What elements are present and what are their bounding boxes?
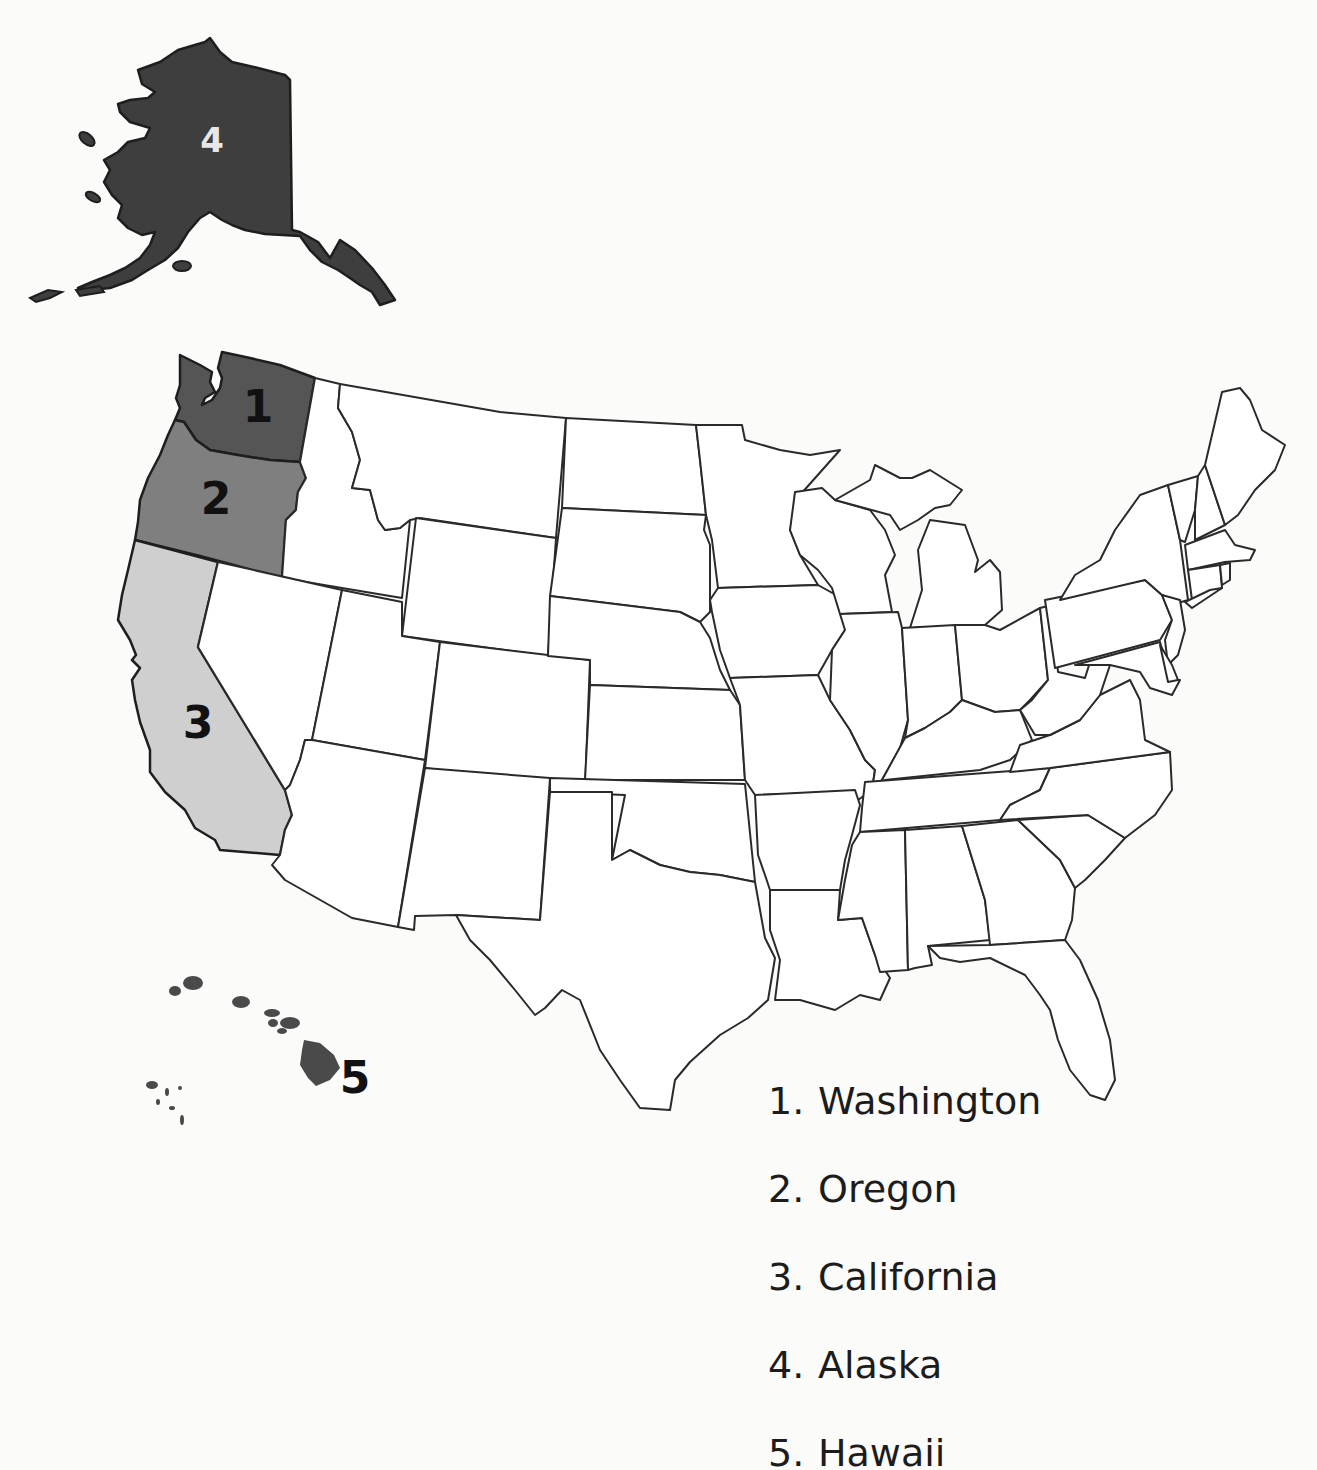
legend-label: California (818, 1254, 998, 1342)
island-maui (280, 1017, 300, 1029)
state-north-dakota (562, 418, 706, 515)
island (84, 190, 102, 205)
island-molokai (264, 1009, 280, 1017)
legend: 1. Washington 2. Oregon 3. California 4.… (768, 1078, 1041, 1470)
state-arkansas (755, 790, 860, 890)
outlying-island (165, 1088, 169, 1096)
legend-number: 3. (768, 1254, 818, 1342)
legend-label: Oregon (818, 1166, 958, 1254)
legend-label: Alaska (818, 1342, 942, 1430)
legend-number: 2. (768, 1166, 818, 1254)
legend-number: 4. (768, 1342, 818, 1430)
alaska-number-label: 4 (200, 120, 224, 160)
other-states (198, 378, 1285, 1110)
legend-item-alaska: 4. Alaska (768, 1342, 1041, 1430)
us-map: 4 1 2 3 (0, 0, 1317, 1470)
state-michigan-lower (910, 520, 1002, 628)
legend-number: 1. (768, 1078, 818, 1166)
oregon-number-label: 2 (201, 473, 232, 524)
island (77, 129, 97, 148)
island-niihau (183, 976, 203, 990)
legend-label: Washington (818, 1078, 1041, 1166)
island-big-island (300, 1040, 340, 1086)
outlying-island (169, 1106, 175, 1110)
outlying-island (178, 1086, 182, 1090)
legend-label: Hawaii (818, 1430, 945, 1470)
legend-number: 5. (768, 1430, 818, 1470)
aleutian-islands (30, 290, 62, 302)
island-oahu (232, 996, 250, 1008)
island-kauai (169, 986, 181, 996)
state-colorado (425, 642, 590, 790)
island (173, 261, 191, 271)
outlying-island (156, 1099, 160, 1105)
state-new-mexico (398, 768, 550, 930)
outlying-island (146, 1081, 158, 1089)
state-alaska[interactable]: 4 (30, 38, 395, 305)
outlying-island (180, 1115, 184, 1125)
state-kansas (585, 685, 745, 780)
california-number-label: 3 (183, 697, 214, 748)
washington-number-label: 1 (243, 381, 274, 432)
hawaii-number-label: 5 (340, 1052, 371, 1103)
state-new-york (1060, 485, 1188, 603)
state-hawaii[interactable]: 5 (146, 976, 370, 1125)
legend-item-washington: 1. Washington (768, 1078, 1041, 1166)
island-kahoolawe (277, 1028, 287, 1034)
state-wyoming (402, 518, 556, 656)
legend-item-oregon: 2. Oregon (768, 1166, 1041, 1254)
island-lanai (268, 1019, 278, 1027)
legend-item-california: 3. California (768, 1254, 1041, 1342)
state-rhode-island (1220, 563, 1230, 585)
state-florida (928, 940, 1115, 1100)
state-iowa (710, 585, 845, 678)
legend-item-hawaii: 5. Hawaii (768, 1430, 1041, 1470)
